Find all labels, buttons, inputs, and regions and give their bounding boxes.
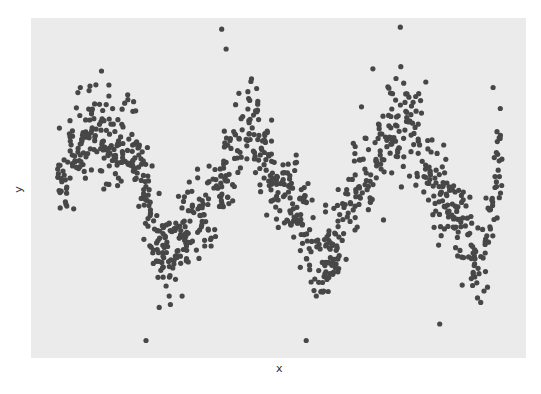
data-point <box>442 170 447 175</box>
data-point <box>245 138 250 143</box>
data-point <box>106 93 111 98</box>
data-point <box>376 136 381 141</box>
data-point <box>200 205 205 210</box>
data-point <box>245 89 250 94</box>
data-point <box>225 194 230 199</box>
data-point <box>348 200 353 205</box>
data-point <box>476 271 481 276</box>
data-point <box>368 172 373 177</box>
data-point <box>82 169 87 174</box>
data-point <box>87 88 92 93</box>
data-point <box>99 168 104 173</box>
data-point <box>78 152 83 157</box>
data-point <box>86 107 91 112</box>
data-point <box>311 288 316 293</box>
data-point <box>307 227 312 232</box>
data-point <box>388 114 393 119</box>
data-point <box>218 174 223 179</box>
data-point <box>326 289 331 294</box>
data-point <box>336 224 341 229</box>
data-point <box>355 225 360 230</box>
data-point <box>131 99 136 104</box>
data-point <box>381 217 386 222</box>
data-point <box>256 117 261 122</box>
data-point <box>353 194 358 199</box>
data-point <box>393 98 398 103</box>
data-point <box>399 184 404 189</box>
data-point <box>92 134 97 139</box>
data-point <box>248 117 253 122</box>
data-point <box>416 151 421 156</box>
data-point <box>219 27 224 32</box>
data-point <box>266 153 271 158</box>
data-point <box>483 250 488 255</box>
data-point <box>432 176 437 181</box>
data-point <box>256 133 261 138</box>
data-point <box>182 218 187 223</box>
data-point <box>167 275 172 280</box>
data-point <box>257 166 262 171</box>
data-point <box>423 162 428 167</box>
data-point <box>492 155 497 160</box>
data-point <box>276 225 281 230</box>
data-point <box>122 101 127 106</box>
data-point <box>125 92 130 97</box>
data-point <box>419 111 424 116</box>
data-point <box>136 204 141 209</box>
data-point <box>326 228 331 233</box>
data-point <box>64 204 69 209</box>
data-point <box>269 118 274 123</box>
data-point <box>57 188 62 193</box>
data-point <box>298 265 303 270</box>
y-axis-title: y <box>12 186 25 193</box>
data-point <box>452 215 457 220</box>
data-point <box>353 215 358 220</box>
data-point <box>77 113 82 118</box>
data-point <box>219 192 224 197</box>
data-point <box>278 181 283 186</box>
data-point <box>251 149 256 154</box>
data-point <box>262 175 267 180</box>
data-point <box>304 231 309 236</box>
data-point <box>248 79 253 84</box>
data-point <box>320 290 325 295</box>
data-point <box>366 147 371 152</box>
data-point <box>213 234 218 239</box>
data-point <box>245 106 250 111</box>
data-point <box>498 106 503 111</box>
data-point <box>288 185 293 190</box>
data-point <box>115 183 120 188</box>
data-point <box>488 226 493 231</box>
data-point <box>465 232 470 237</box>
data-point <box>104 102 109 107</box>
data-point <box>328 247 333 252</box>
data-point <box>214 183 219 188</box>
data-point <box>219 184 224 189</box>
data-point <box>470 283 475 288</box>
data-point <box>202 212 207 217</box>
data-point <box>458 224 463 229</box>
data-point <box>167 264 172 269</box>
data-point <box>426 197 431 202</box>
data-point <box>288 221 293 226</box>
data-point <box>472 261 477 266</box>
data-point <box>353 187 358 192</box>
data-point <box>366 207 371 212</box>
data-point <box>130 143 135 148</box>
data-point <box>244 156 249 161</box>
data-point <box>64 186 69 191</box>
data-point <box>218 166 223 171</box>
data-point <box>87 83 92 88</box>
data-point <box>341 231 346 236</box>
data-point <box>182 194 187 199</box>
data-point <box>461 190 466 195</box>
data-point <box>247 98 252 103</box>
data-point <box>437 212 442 217</box>
data-point <box>113 171 118 176</box>
data-point <box>100 108 105 113</box>
data-point <box>254 86 259 91</box>
data-point <box>104 128 109 133</box>
data-point <box>157 236 162 241</box>
data-point <box>221 204 226 209</box>
data-point <box>395 150 400 155</box>
